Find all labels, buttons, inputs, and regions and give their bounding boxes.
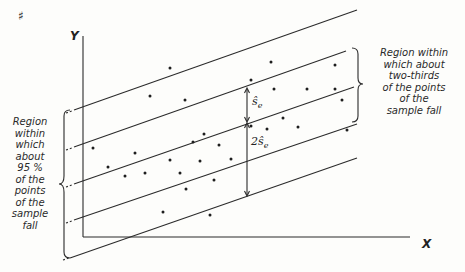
two-se-label: 2ŝe bbox=[251, 135, 268, 150]
se-label: ŝe bbox=[252, 95, 262, 110]
data-point bbox=[270, 61, 273, 64]
data-point bbox=[162, 211, 165, 214]
data-point bbox=[169, 67, 172, 70]
data-point bbox=[334, 64, 337, 67]
y-axis-label: Y bbox=[70, 29, 79, 43]
data-point bbox=[346, 129, 349, 132]
data-point bbox=[209, 214, 212, 217]
band-line-minus-1se bbox=[74, 124, 357, 220]
data-point bbox=[250, 79, 253, 82]
band-line-plus-2se bbox=[74, 10, 357, 110]
data-point bbox=[282, 117, 285, 120]
data-point bbox=[134, 152, 137, 155]
band-line-plus-1se bbox=[74, 51, 346, 147]
data-point bbox=[149, 95, 152, 98]
data-point bbox=[169, 159, 172, 162]
data-point bbox=[184, 99, 187, 102]
data-point bbox=[199, 160, 202, 163]
right-brace bbox=[352, 48, 363, 122]
data-point bbox=[203, 133, 206, 136]
data-point bbox=[192, 141, 195, 144]
data-point bbox=[266, 128, 269, 131]
data-point bbox=[92, 147, 95, 150]
data-point bbox=[297, 126, 300, 129]
data-point bbox=[341, 99, 344, 102]
data-point bbox=[334, 88, 337, 91]
corner-mark: ♯ bbox=[18, 9, 24, 23]
data-point bbox=[306, 88, 309, 91]
data-point bbox=[124, 175, 127, 178]
x-axis-label: X bbox=[422, 237, 431, 251]
data-point bbox=[107, 166, 110, 169]
ninety-five-percent-region-label: Region within which about 95 % of the po… bbox=[2, 116, 58, 231]
data-point bbox=[179, 172, 182, 175]
regression-line bbox=[74, 87, 354, 184]
data-point bbox=[273, 88, 276, 91]
data-point bbox=[218, 144, 221, 147]
data-point bbox=[185, 188, 188, 191]
left-brace bbox=[59, 110, 70, 258]
data-point bbox=[144, 172, 147, 175]
data-points bbox=[92, 61, 349, 217]
data-point bbox=[213, 179, 216, 182]
two-thirds-region-label: Region within which about two-thirds of … bbox=[366, 47, 462, 116]
data-point bbox=[230, 158, 233, 161]
data-point bbox=[250, 125, 253, 128]
